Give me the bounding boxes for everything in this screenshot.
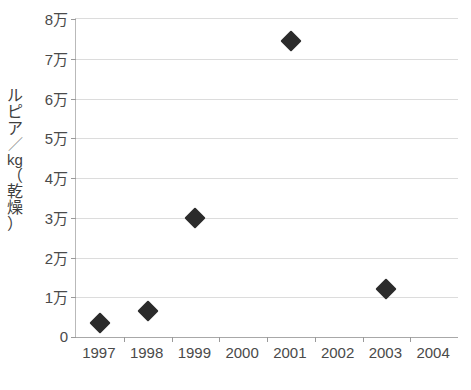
y-axis-tick-label: 0 (22, 328, 68, 345)
x-axis-tick-mark (124, 337, 125, 342)
x-axis-tick-label: 1997 (82, 344, 115, 361)
x-axis-tick-mark (363, 337, 364, 342)
x-axis-tick-mark (315, 337, 316, 342)
y-axis-title-char: ／ (8, 137, 23, 152)
y-axis-tick-mark (71, 297, 76, 298)
gridline (76, 59, 458, 60)
gridline (76, 99, 458, 100)
y-axis-tick-mark (71, 99, 76, 100)
x-axis-tick-label: 2001 (273, 344, 306, 361)
gridline (76, 218, 458, 219)
y-axis-tick-mark (71, 19, 76, 20)
x-axis-tick-mark (172, 337, 173, 342)
data-point-marker (137, 301, 158, 322)
y-axis-title-char: 乾 (7, 184, 23, 200)
y-axis-title-char: ） (7, 216, 23, 232)
y-axis-title-char: （ (7, 168, 23, 184)
x-axis-tick-mark (219, 337, 220, 342)
x-axis-tick-label: 1999 (178, 344, 211, 361)
y-axis-tick-label: 4万 (22, 167, 68, 188)
x-axis-tick-label: 2003 (369, 344, 402, 361)
x-axis-tick-label: 2004 (416, 344, 449, 361)
y-axis-tick-label: 5万 (22, 127, 68, 148)
data-point-marker (89, 312, 110, 333)
x-axis-tick-mark (410, 337, 411, 342)
plot-area (75, 18, 458, 338)
y-axis-tick-label: 1万 (22, 286, 68, 307)
x-axis-tick-label: 2002 (321, 344, 354, 361)
y-axis-title-char: ア (7, 121, 23, 137)
scatter-chart: ル ピ ア ／ kg （ 乾 燥 ） 01万2万3万4万5万6万7万8万 199… (0, 0, 471, 390)
y-axis-tick-label: 6万 (22, 87, 68, 108)
data-point-marker (185, 207, 206, 228)
gridline (76, 258, 458, 259)
y-axis-tick-mark (71, 138, 76, 139)
y-axis-title-char: kg (7, 152, 23, 167)
x-axis-tick-label: 2000 (225, 344, 258, 361)
y-axis-title-char: ル (7, 88, 23, 104)
y-axis-tick-label: 8万 (22, 8, 68, 29)
gridline (76, 297, 458, 298)
y-axis-tick-mark (71, 178, 76, 179)
gridline (76, 178, 458, 179)
x-axis-tick-label: 1998 (130, 344, 163, 361)
y-axis-tick-mark (71, 337, 76, 338)
x-axis-tick-mark (267, 337, 268, 342)
y-axis-tick-mark (71, 218, 76, 219)
x-axis-tick-labels: 19971998199920002001200220032004 (75, 344, 458, 368)
y-axis-title-char: 燥 (7, 200, 23, 216)
y-axis-tick-label: 7万 (22, 47, 68, 68)
y-axis-tick-label: 2万 (22, 246, 68, 267)
gridline (76, 138, 458, 139)
y-axis-title-char: ピ (7, 104, 23, 120)
data-point-marker (280, 30, 301, 51)
y-axis-tick-labels: 01万2万3万4万5万6万7万8万 (22, 0, 68, 390)
y-axis-tick-mark (71, 258, 76, 259)
y-axis-tick-mark (71, 59, 76, 60)
y-axis-tick-label: 3万 (22, 206, 68, 227)
